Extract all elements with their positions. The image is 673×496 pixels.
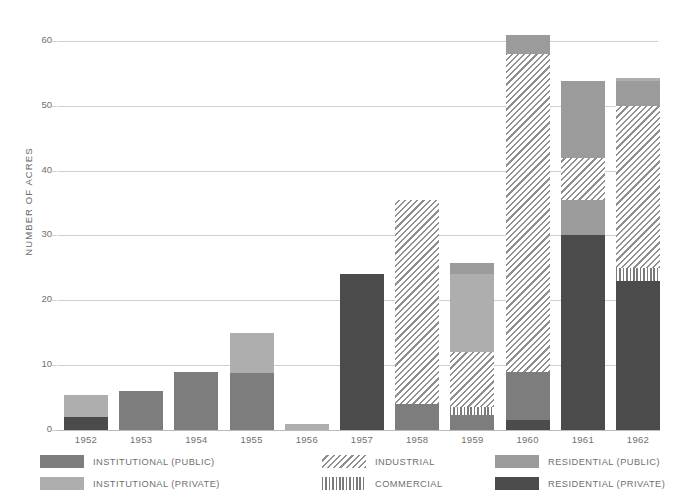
bar-1956[interactable]	[285, 424, 329, 430]
legend-item-res_priv[interactable]: RESIDENTIAL (PRIVATE)	[495, 474, 665, 493]
bar-segment-1959-industrial[interactable]	[450, 352, 494, 407]
legend-column-2: INDUSTRIALCOMMERCIAL	[322, 452, 443, 496]
bar-segment-1953-inst_pub[interactable]	[119, 391, 163, 430]
legend-label-res_pub: RESIDENTIAL (PUBLIC)	[548, 457, 660, 467]
x-tick-label-1956: 1956	[285, 434, 329, 445]
bar-1960[interactable]	[506, 34, 550, 430]
plot-area: 0102030405060195219531954195519561957195…	[58, 28, 658, 430]
bar-segment-1955-inst_pub[interactable]	[230, 373, 274, 430]
bar-segment-1962-industrial[interactable]	[616, 106, 660, 268]
legend-label-res_priv: RESIDENTIAL (PRIVATE)	[548, 479, 665, 489]
legend-item-inst_priv[interactable]: INSTITUTIONAL (PRIVATE)	[40, 474, 220, 493]
bar-segment-1957-res_priv[interactable]	[340, 274, 384, 430]
bar-segment-1960-res_pub[interactable]	[506, 35, 550, 54]
legend-swatch-inst_pub	[40, 455, 84, 468]
bar-1955[interactable]	[230, 333, 274, 430]
x-axis-baseline	[52, 430, 660, 431]
bar-segment-1962-res_priv[interactable]	[616, 281, 660, 430]
legend-column-3: RESIDENTIAL (PUBLIC)RESIDENTIAL (PRIVATE…	[495, 452, 665, 496]
legend-swatch-commercial	[322, 477, 366, 490]
bar-1957[interactable]	[340, 274, 384, 430]
bar-segment-1961-res_pub[interactable]	[561, 81, 605, 158]
bar-segment-1958-inst_pub[interactable]	[395, 404, 439, 430]
x-tick-label-1962: 1962	[616, 434, 660, 445]
bar-segment-1952-inst_priv[interactable]	[64, 395, 108, 417]
legend-label-inst_priv: INSTITUTIONAL (PRIVATE)	[93, 479, 220, 489]
bar-segment-1959-inst_pub[interactable]	[450, 415, 494, 430]
y-tick-mark-20	[52, 300, 57, 301]
bar-segment-1959-commercial[interactable]	[450, 407, 494, 415]
x-tick-label-1955: 1955	[230, 434, 274, 445]
bar-1962[interactable]	[616, 78, 660, 430]
legend-label-commercial: COMMERCIAL	[375, 479, 443, 489]
legend-item-inst_pub[interactable]: INSTITUTIONAL (PUBLIC)	[40, 452, 220, 471]
legend-item-industrial[interactable]: INDUSTRIAL	[322, 452, 443, 471]
x-tick-label-1958: 1958	[395, 434, 439, 445]
legend-swatch-industrial	[322, 455, 366, 468]
x-tick-label-1957: 1957	[340, 434, 384, 445]
bar-1959[interactable]	[450, 263, 494, 430]
y-tick-mark-10	[52, 365, 57, 366]
bar-segment-1955-inst_priv[interactable]	[230, 333, 274, 373]
y-tick-label-10: 10	[12, 359, 52, 369]
bar-segment-1959-inst_priv[interactable]	[450, 274, 494, 352]
legend-column-1: INSTITUTIONAL (PUBLIC)INSTITUTIONAL (PRI…	[40, 452, 220, 496]
bar-segment-1962-commercial[interactable]	[616, 268, 660, 281]
bar-segment-1962-res_pub[interactable]	[616, 81, 660, 106]
bar-segment-1960-res_priv[interactable]	[506, 420, 550, 430]
x-tick-label-1952: 1952	[64, 434, 108, 445]
x-tick-label-1959: 1959	[450, 434, 494, 445]
y-tick-mark-50	[52, 106, 57, 107]
bar-segment-1959-res_pub[interactable]	[450, 263, 494, 274]
legend-swatch-inst_priv	[40, 477, 84, 490]
bar-segment-1958-industrial[interactable]	[395, 200, 439, 404]
y-tick-label-0: 0	[12, 424, 52, 434]
bar-segment-1956-inst_priv[interactable]	[285, 424, 329, 430]
y-tick-mark-30	[52, 235, 57, 236]
y-tick-mark-40	[52, 171, 57, 172]
x-tick-label-1954: 1954	[174, 434, 218, 445]
bar-1954[interactable]	[174, 372, 218, 430]
x-tick-label-1961: 1961	[561, 434, 605, 445]
y-axis-title: NUMBER OF ACRES	[23, 127, 34, 277]
y-tick-mark-0	[52, 430, 57, 431]
y-tick-label-20: 20	[12, 294, 52, 304]
bar-segment-1960-industrial[interactable]	[506, 54, 550, 372]
legend-swatch-res_priv	[495, 477, 539, 490]
x-tick-label-1953: 1953	[119, 434, 163, 445]
bar-1958[interactable]	[395, 200, 439, 430]
legend-swatch-res_pub	[495, 455, 539, 468]
y-tick-label-50: 50	[12, 100, 52, 110]
legend-label-inst_pub: INSTITUTIONAL (PUBLIC)	[93, 457, 215, 467]
bar-1952[interactable]	[64, 395, 108, 430]
legend-item-commercial[interactable]: COMMERCIAL	[322, 474, 443, 493]
bar-1961[interactable]	[561, 81, 605, 430]
bar-segment-1961-res_pub[interactable]	[561, 200, 605, 236]
bar-segment-1952-res_priv[interactable]	[64, 417, 108, 430]
acreage-stacked-bar-chart: NUMBER OF ACRES 010203040506019521953195…	[0, 0, 673, 496]
legend-item-res_pub[interactable]: RESIDENTIAL (PUBLIC)	[495, 452, 665, 471]
gridline-60	[58, 41, 658, 42]
bar-segment-1954-inst_pub[interactable]	[174, 372, 218, 430]
bar-segment-1960-inst_pub[interactable]	[506, 372, 550, 421]
legend-label-industrial: INDUSTRIAL	[375, 457, 435, 467]
bar-segment-1961-industrial[interactable]	[561, 158, 605, 200]
bar-segment-1962-inst_priv[interactable]	[616, 78, 660, 81]
y-tick-label-30: 30	[12, 229, 52, 239]
y-tick-label-40: 40	[12, 165, 52, 175]
x-tick-label-1960: 1960	[506, 434, 550, 445]
chart-legend: INSTITUTIONAL (PUBLIC)INSTITUTIONAL (PRI…	[0, 452, 673, 496]
bar-1953[interactable]	[119, 391, 163, 430]
y-tick-mark-60	[52, 41, 57, 42]
bar-segment-1961-res_priv[interactable]	[561, 235, 605, 430]
y-tick-label-60: 60	[12, 35, 52, 45]
